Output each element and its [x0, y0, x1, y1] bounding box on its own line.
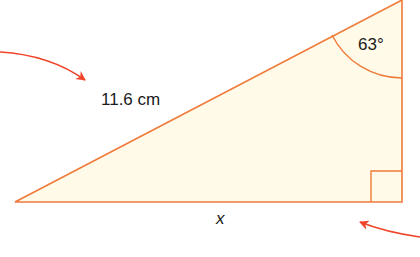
right-triangle-shape: [15, 0, 402, 202]
hypotenuse-pointer-arrow: [0, 52, 85, 80]
base-label: x: [215, 209, 225, 228]
right-angle-pointer-arrow: [360, 222, 420, 237]
hypotenuse-label: 11.6 cm: [101, 90, 160, 109]
angle-label: 63°: [358, 35, 384, 54]
triangle-diagram: 11.6 cm 63° x: [0, 0, 420, 257]
